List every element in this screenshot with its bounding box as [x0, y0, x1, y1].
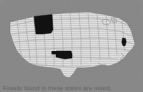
us-map: [3, 6, 140, 82]
us-map-svg: [3, 6, 140, 82]
figure-caption: Fossils found in these states are noted.: [3, 84, 142, 92]
map-landmass: [3, 6, 140, 82]
highlight-state-montana: [34, 15, 53, 34]
fossil-distribution-figure: Fossils found in these states are noted.: [0, 0, 143, 92]
